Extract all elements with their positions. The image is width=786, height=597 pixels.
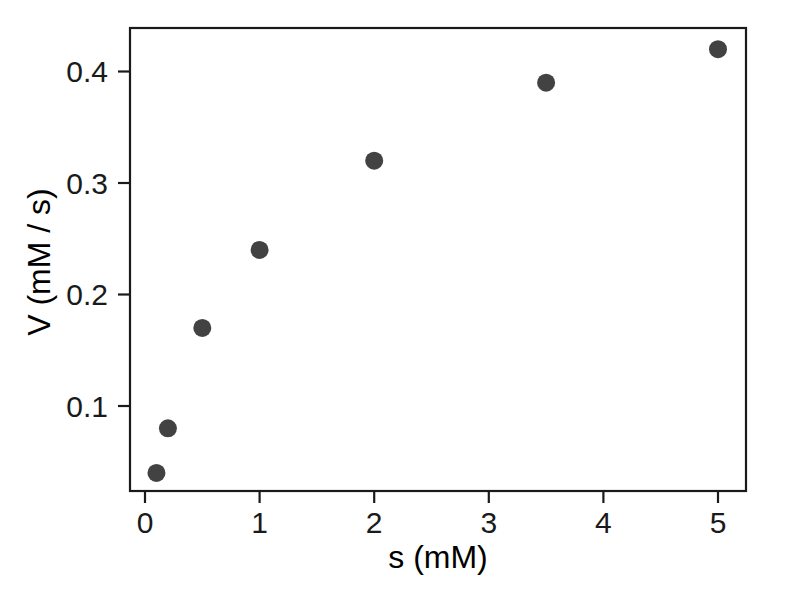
y-tick-label-0.2: 0.2 <box>66 278 108 311</box>
x-axis-ticks <box>145 491 718 503</box>
x-tick-label-5: 5 <box>710 506 727 539</box>
plot-canvas: 0 1 2 3 4 5 0.1 0.2 0.3 0.4 s (mM) V (mM… <box>0 0 786 597</box>
y-axis-tick-labels: 0.1 0.2 0.3 0.4 <box>66 55 108 423</box>
data-point <box>147 464 165 482</box>
y-tick-label-0.3: 0.3 <box>66 167 108 200</box>
x-tick-label-2: 2 <box>366 506 383 539</box>
y-axis-title: V (mM / s) <box>21 188 57 336</box>
x-tick-label-3: 3 <box>480 506 497 539</box>
y-axis-ticks <box>118 72 130 407</box>
x-tick-label-0: 0 <box>137 506 154 539</box>
y-tick-label-0.4: 0.4 <box>66 55 108 88</box>
plot-frame <box>130 28 746 491</box>
y-tick-label-0.1: 0.1 <box>66 390 108 423</box>
x-axis-title: s (mM) <box>388 539 488 575</box>
data-point <box>537 74 555 92</box>
x-tick-label-1: 1 <box>251 506 268 539</box>
scatter-plot-figure: 0 1 2 3 4 5 0.1 0.2 0.3 0.4 s (mM) V (mM… <box>0 0 786 597</box>
data-point <box>193 319 211 337</box>
data-point-layer <box>147 40 727 482</box>
data-point <box>251 241 269 259</box>
data-point <box>159 419 177 437</box>
x-tick-label-4: 4 <box>595 506 612 539</box>
data-point <box>365 152 383 170</box>
x-axis-tick-labels: 0 1 2 3 4 5 <box>137 506 727 539</box>
data-point <box>709 40 727 58</box>
